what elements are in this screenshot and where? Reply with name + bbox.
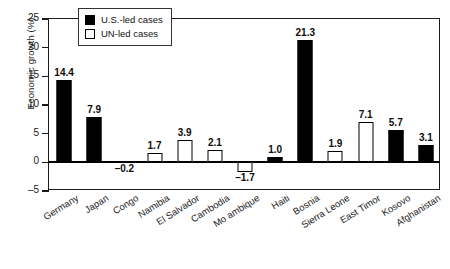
bar-slot: 2.1: [200, 19, 230, 189]
bar-slot: 3.1: [411, 19, 441, 189]
bar-slot: 5.7: [381, 19, 411, 189]
y-axis-tick-label: 5: [0, 128, 39, 138]
bar-slot: 1.9: [320, 19, 350, 189]
bar-value-label: 1.7: [148, 141, 162, 151]
bar-value-label: 7.9: [87, 105, 101, 115]
bar: [268, 157, 283, 163]
bar: [328, 151, 343, 162]
bar-value-label: 3.1: [419, 133, 433, 143]
bar-value-label: –1.7: [235, 173, 254, 183]
y-axis-tick-label: 10: [0, 99, 39, 109]
bar-chart-figure: Economic growth (%) –50510152025 14.47.9…: [0, 0, 450, 269]
bar: [418, 145, 433, 163]
bar: [358, 122, 373, 163]
bar-value-label: 3.9: [178, 128, 192, 138]
bar: [207, 150, 222, 162]
bar: [177, 140, 192, 162]
bar-value-label: 1.0: [268, 145, 282, 155]
bar-value-label: 2.1: [208, 138, 222, 148]
legend-swatch-filled-icon: [85, 15, 95, 25]
bar-value-label: –0.2: [115, 164, 134, 174]
y-axis-tick: [42, 47, 49, 48]
bar-value-label: 21.3: [296, 28, 315, 38]
legend-label-un-led: UN-led cases: [101, 29, 158, 39]
bar-slot: 1.0: [260, 19, 290, 189]
bar-value-label: 5.7: [389, 118, 403, 128]
bar: [237, 162, 252, 172]
legend-item-us-led: U.S.-led cases: [85, 13, 163, 27]
bar-slot: 7.1: [351, 19, 381, 189]
y-axis-tick-label: 20: [0, 42, 39, 52]
legend-swatch-outline-icon: [85, 29, 95, 39]
legend-label-us-led: U.S.-led cases: [101, 15, 163, 25]
bar-slot: 3.9: [170, 19, 200, 189]
bar: [147, 153, 162, 163]
y-axis-tick-label: 0: [0, 156, 39, 166]
x-axis-tick-label: Germany: [42, 193, 80, 222]
bar-slot: –1.7: [230, 19, 260, 189]
bar: [298, 40, 313, 162]
y-axis-tick: [42, 76, 49, 77]
y-axis-tick: [42, 18, 49, 19]
bar-value-label: 14.4: [54, 68, 73, 78]
bar-slot: 21.3: [290, 19, 320, 189]
y-axis-tick-label: 25: [0, 13, 39, 23]
y-axis-tick-label: –5: [0, 185, 39, 195]
y-axis-tick-label: 15: [0, 70, 39, 80]
y-axis-tick: [42, 162, 49, 163]
bar: [87, 117, 102, 162]
bar: [388, 130, 403, 163]
bar-slot: 14.4: [49, 19, 79, 189]
legend-item-un-led: UN-led cases: [85, 27, 163, 41]
chart-legend: U.S.-led cases UN-led cases: [78, 8, 172, 46]
bar-value-label: 7.1: [359, 110, 373, 120]
x-axis-tick-label: Haiti: [270, 193, 291, 212]
bar: [57, 80, 72, 163]
x-axis-tick-label: Japan: [83, 193, 110, 215]
y-axis-tick: [42, 190, 49, 191]
y-axis-tick: [42, 104, 49, 105]
bar-value-label: 1.9: [328, 139, 342, 149]
y-axis-tick: [42, 133, 49, 134]
